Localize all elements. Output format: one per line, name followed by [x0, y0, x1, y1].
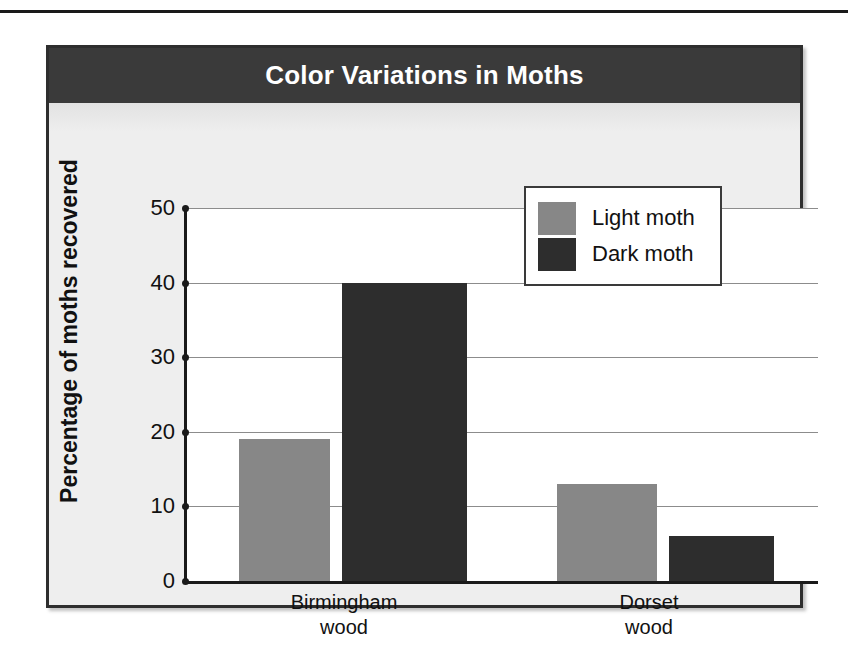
chart-title-bar: Color Variations in Moths	[49, 48, 800, 103]
chart-body: Percentage of moths recovered 50 40 30 2…	[49, 103, 800, 605]
legend-label-dark-moth: Dark moth	[592, 241, 693, 267]
legend-swatch-icon-light-moth	[538, 202, 576, 235]
bar-dorset-light-moth[interactable]	[557, 484, 657, 581]
tick-dot-20	[182, 429, 189, 436]
top-divider-rule	[0, 10, 848, 13]
chart-figure-frame: Color Variations in Moths Percentage of …	[46, 45, 803, 608]
tick-dot-10	[182, 503, 189, 510]
gridline-30	[187, 357, 818, 358]
gridline-50	[187, 208, 818, 209]
bar-dorset-dark-moth[interactable]	[669, 536, 774, 581]
y-axis-title: Percentage of moths recovered	[55, 151, 83, 511]
gridline-20	[187, 432, 818, 433]
y-tick-label-10: 10	[121, 493, 175, 519]
y-tick-label-40: 40	[121, 270, 175, 296]
y-axis-tick-labels: 50 40 30 20 10 0	[95, 103, 175, 605]
y-tick-label-0: 0	[121, 568, 175, 594]
plot-area: Light moth Dark moth	[184, 208, 818, 584]
bar-birmingham-light-moth[interactable]	[239, 439, 330, 581]
y-tick-label-20: 20	[121, 419, 175, 445]
tick-dot-30	[182, 354, 189, 361]
chart-legend: Light moth Dark moth	[524, 186, 722, 286]
legend-item-light-moth[interactable]: Light moth	[538, 200, 706, 236]
x-axis-category-birmingham: Birmingham wood	[199, 590, 489, 640]
x-axis-category-dorset: Dorset wood	[504, 590, 794, 640]
legend-item-dark-moth[interactable]: Dark moth	[538, 236, 706, 272]
y-tick-label-50: 50	[121, 195, 175, 221]
y-tick-label-30: 30	[121, 344, 175, 370]
gridline-40	[187, 283, 818, 284]
legend-label-light-moth: Light moth	[592, 205, 695, 231]
bar-birmingham-dark-moth[interactable]	[342, 283, 467, 581]
chart-title: Color Variations in Moths	[265, 60, 583, 91]
tick-dot-50	[182, 205, 189, 212]
tick-dot-0	[182, 578, 189, 585]
legend-swatch-icon-dark-moth	[538, 238, 576, 271]
tick-dot-40	[182, 280, 189, 287]
